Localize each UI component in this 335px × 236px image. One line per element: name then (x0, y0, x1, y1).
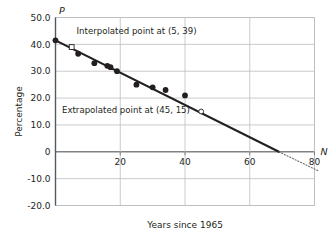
x-axis-title: Years since 1965 (146, 220, 223, 230)
y-axis-tick-label: 40.0 (30, 40, 50, 50)
data-point-marker (150, 84, 156, 90)
y-axis-letter-label: P (59, 5, 65, 16)
x-axis-tick-label: 20 (115, 157, 127, 167)
data-point-marker (91, 60, 97, 66)
y-axis-tick-label: 20.0 (30, 93, 50, 103)
chart-container: 50.040.030.020.010.00-10.0-20.020406080P… (0, 0, 335, 236)
data-point-marker (182, 92, 188, 98)
x-axis-letter-label: N (321, 146, 328, 157)
interpolated-annotation: Interpolated point at (5, 39) (77, 26, 197, 36)
percentage-vs-years-scatter-chart: 50.040.030.020.010.00-10.0-20.020406080P… (0, 0, 335, 236)
data-point-marker (75, 51, 81, 57)
y-axis-tick-label: 50.0 (30, 13, 50, 23)
y-axis-tick-label: -20.0 (27, 201, 51, 211)
data-point-marker (108, 64, 114, 70)
extrapolated-point-marker (199, 109, 204, 114)
x-axis-tick-label: 60 (244, 157, 256, 167)
extrapolated-annotation: Extrapolated point at (45, 15) (62, 105, 190, 115)
x-axis-tick-label: 80 (309, 157, 321, 167)
data-point-marker (53, 37, 59, 43)
data-point-marker (114, 68, 120, 74)
interpolated-point-marker (69, 45, 74, 50)
data-point-marker (163, 87, 169, 93)
x-axis-tick-label: 40 (179, 157, 191, 167)
y-axis-tick-label: 0 (45, 147, 51, 157)
data-point-marker (134, 82, 140, 88)
y-axis-title: Percentage (14, 86, 24, 137)
y-axis-tick-label: -10.0 (27, 174, 51, 184)
y-axis-tick-label: 30.0 (30, 66, 50, 76)
y-axis-tick-label: 10.0 (30, 120, 50, 130)
